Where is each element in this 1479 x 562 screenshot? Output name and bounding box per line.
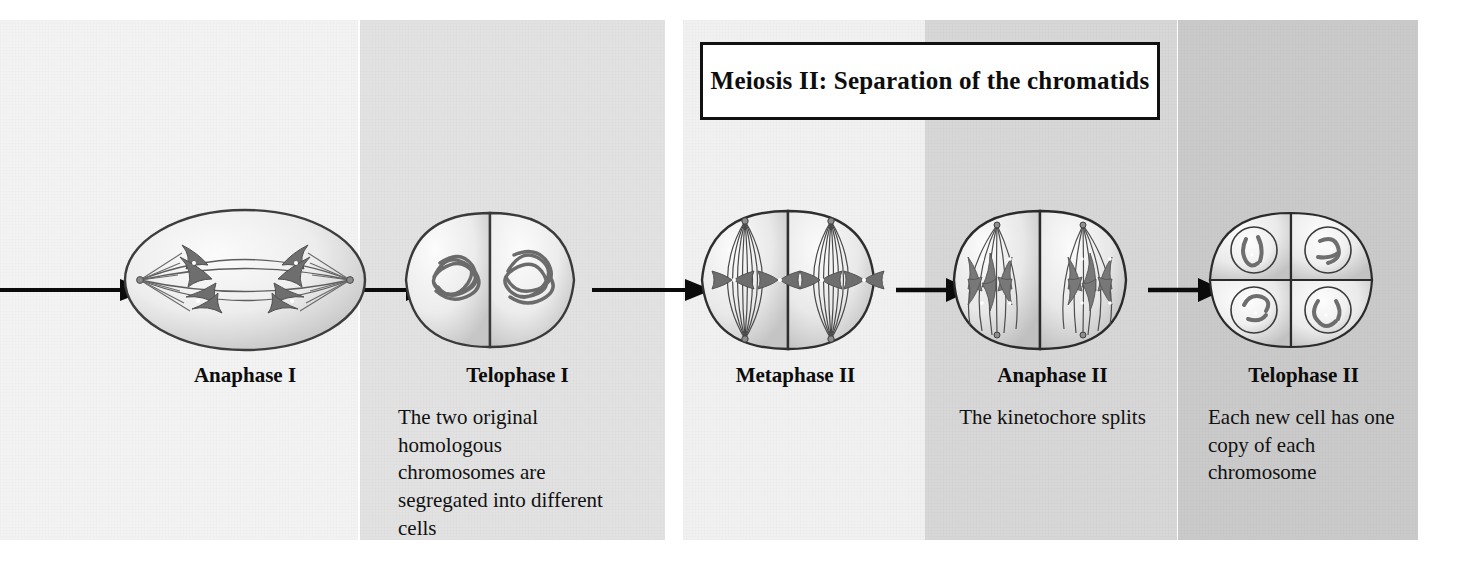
title-banner: Meiosis II: Separation of the chromatids bbox=[700, 42, 1160, 120]
stage-caption-anaphase-2: The kinetochore splits bbox=[940, 404, 1165, 432]
stage-label-anaphase-1: Anaphase I bbox=[110, 363, 380, 388]
stage-metaphase-2: Metaphase II bbox=[688, 205, 903, 388]
stage-caption-telophase-2: Each new cell has one copy of each chrom… bbox=[1196, 404, 1398, 487]
stage-caption-telophase-1: The two original homologous chromosomes … bbox=[390, 404, 623, 543]
stage-label-anaphase-2: Anaphase II bbox=[940, 363, 1165, 388]
cell-diagram-anaphase-1 bbox=[110, 205, 380, 355]
cell-diagram-telophase-1 bbox=[390, 205, 645, 355]
stage-anaphase-1: Anaphase I bbox=[110, 205, 380, 388]
cell-diagram-anaphase-2 bbox=[940, 205, 1165, 355]
title-banner-text: Meiosis II: Separation of the chromatids bbox=[711, 67, 1150, 95]
stage-label-telophase-2: Telophase II bbox=[1196, 363, 1411, 388]
stage-label-telophase-1: Telophase I bbox=[390, 363, 645, 388]
stage-telophase-2: Telophase II Each new cell has one copy … bbox=[1196, 205, 1411, 487]
meiosis-figure: Meiosis II: Separation of the chromatids bbox=[0, 0, 1479, 562]
stage-anaphase-2: Anaphase II The kinetochore splits bbox=[940, 205, 1165, 432]
cell-diagram-telophase-2 bbox=[1196, 205, 1411, 355]
stage-telophase-1: Telophase I The two original homologous … bbox=[390, 205, 645, 543]
stage-label-metaphase-2: Metaphase II bbox=[688, 363, 903, 388]
cell-diagram-metaphase-2 bbox=[688, 205, 903, 355]
